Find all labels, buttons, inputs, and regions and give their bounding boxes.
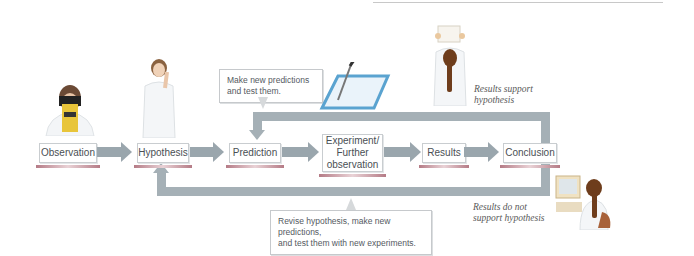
arrow-observation-hypothesis bbox=[97, 147, 122, 157]
step-experiment-line3: observation bbox=[327, 159, 379, 171]
support-loop-down bbox=[253, 112, 262, 132]
pipette-tray-icon bbox=[312, 62, 392, 112]
scientist-thinking-icon bbox=[137, 58, 181, 138]
arrow-prediction-experiment bbox=[282, 147, 309, 157]
step-prediction: Prediction bbox=[229, 143, 281, 163]
step-experiment-line1: Experiment/ bbox=[326, 135, 379, 147]
step-observation: Observation bbox=[39, 143, 97, 163]
scientist-computer-icon bbox=[554, 172, 614, 230]
callout-new-predictions-pointer bbox=[258, 97, 268, 109]
callout-revise-hypothesis: Revise hypothesis, make new predictions,… bbox=[270, 210, 432, 255]
step-results-label: Results bbox=[427, 147, 460, 159]
top-rule bbox=[373, 2, 663, 3]
revise-loop-up bbox=[157, 172, 166, 196]
support-loop-arrowhead bbox=[249, 130, 265, 140]
step-hypothesis-label: Hypothesis bbox=[138, 147, 187, 159]
arrow-hypothesis-prediction bbox=[190, 147, 214, 157]
step-conclusion-label: Conclusion bbox=[505, 147, 554, 159]
callout-revise-pointer bbox=[346, 198, 356, 210]
label-results-support: Results support hypothesis bbox=[474, 84, 533, 106]
scientist-microscope-icon bbox=[40, 78, 100, 136]
support-loop-top bbox=[253, 112, 550, 121]
step-conclusion: Conclusion bbox=[503, 143, 557, 163]
step-prediction-label: Prediction bbox=[233, 147, 277, 159]
step-observation-label: Observation bbox=[41, 147, 95, 159]
arrow-experiment-results bbox=[384, 147, 411, 157]
arrow-results-conclusion bbox=[464, 147, 489, 157]
step-experiment-line2: Further bbox=[336, 147, 368, 159]
callout-new-predictions: Make new predictions and test them. bbox=[219, 69, 323, 103]
label-results-not-support: Results do not support hypothesis bbox=[473, 202, 545, 224]
step-hypothesis: Hypothesis bbox=[137, 143, 189, 163]
step-experiment: Experiment/ Further observation bbox=[322, 134, 383, 172]
scientist-holding-results-icon bbox=[430, 22, 470, 106]
revise-loop-bottom bbox=[157, 187, 550, 196]
step-results: Results bbox=[422, 143, 466, 163]
